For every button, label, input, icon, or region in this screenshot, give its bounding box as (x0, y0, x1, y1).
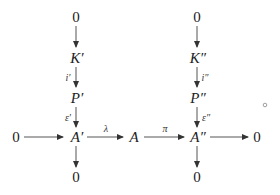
node-a-prime: A′ (71, 130, 83, 145)
node-bottom-left-zero: 0 (72, 170, 80, 185)
node-a-dprime: A″ (190, 130, 205, 145)
node-a: A (129, 130, 138, 145)
node-k-dprime: K″ (190, 51, 206, 66)
node-top-right-zero: 0 (193, 10, 201, 25)
node-k-prime: K′ (70, 51, 83, 66)
decoration-circle (263, 103, 267, 107)
node-top-left-zero: 0 (72, 10, 80, 25)
node-left-zero: 0 (12, 130, 20, 145)
label-i-prime: i′ (66, 73, 71, 83)
label-epsilon-dprime: ε″ (202, 113, 210, 123)
node-bottom-right-zero: 0 (193, 170, 201, 185)
label-epsilon-prime: ε′ (65, 113, 71, 123)
label-i-dprime: i″ (202, 73, 209, 83)
arrows-layer (0, 0, 280, 195)
label-lambda: λ (104, 124, 108, 134)
node-p-prime: P′ (71, 91, 83, 106)
label-pi: π (162, 124, 167, 134)
node-right-zero: 0 (253, 130, 261, 145)
node-p-dprime: P″ (190, 91, 205, 106)
